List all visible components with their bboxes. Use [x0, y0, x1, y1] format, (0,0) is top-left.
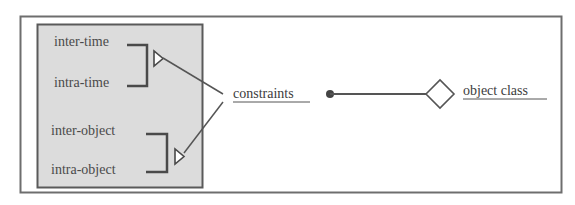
constraints-label: constraints: [233, 86, 294, 101]
label-inter-object: inter-object: [51, 123, 115, 138]
label-intra-time: intra-time: [54, 75, 109, 90]
label-inter-time: inter-time: [54, 34, 109, 49]
diagram-canvas: inter-time intra-time inter-object intra…: [0, 0, 575, 205]
object-class-label: object class: [463, 83, 528, 98]
label-intra-object: intra-object: [51, 162, 116, 177]
